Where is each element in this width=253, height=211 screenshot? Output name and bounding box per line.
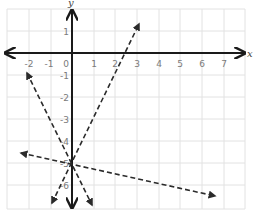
svg-text:-6: -6 (60, 181, 69, 191)
svg-text:-3: -3 (60, 115, 69, 125)
svg-text:7: 7 (221, 59, 227, 69)
svg-text:1: 1 (91, 59, 97, 69)
svg-text:-2: -2 (60, 93, 69, 103)
line-shallow-negative-slope (21, 153, 215, 196)
svg-text:4: 4 (156, 59, 162, 69)
svg-text:-5: -5 (60, 159, 69, 169)
svg-text:-1: -1 (60, 71, 69, 81)
x-axis-label: x (247, 48, 253, 59)
svg-text:-1: -1 (45, 59, 54, 69)
svg-text:1: 1 (63, 27, 69, 37)
svg-text:2: 2 (112, 59, 118, 69)
svg-text:6: 6 (199, 59, 205, 69)
svg-text:0: 0 (63, 59, 69, 69)
x-tick-labels: -2 -1 0 1 2 3 4 5 6 7 (25, 59, 227, 69)
svg-text:5: 5 (177, 59, 183, 69)
svg-text:-2: -2 (25, 59, 34, 69)
y-axis-label: y (67, 0, 74, 8)
grid (7, 9, 245, 209)
svg-text:-4: -4 (60, 137, 69, 147)
coordinate-plane: x y -2 -1 0 1 2 3 4 5 6 7 1 -1 -2 -3 -4 … (0, 0, 253, 211)
svg-text:3: 3 (134, 59, 140, 69)
y-tick-labels: 1 -1 -2 -3 -4 -5 -6 (60, 27, 69, 191)
